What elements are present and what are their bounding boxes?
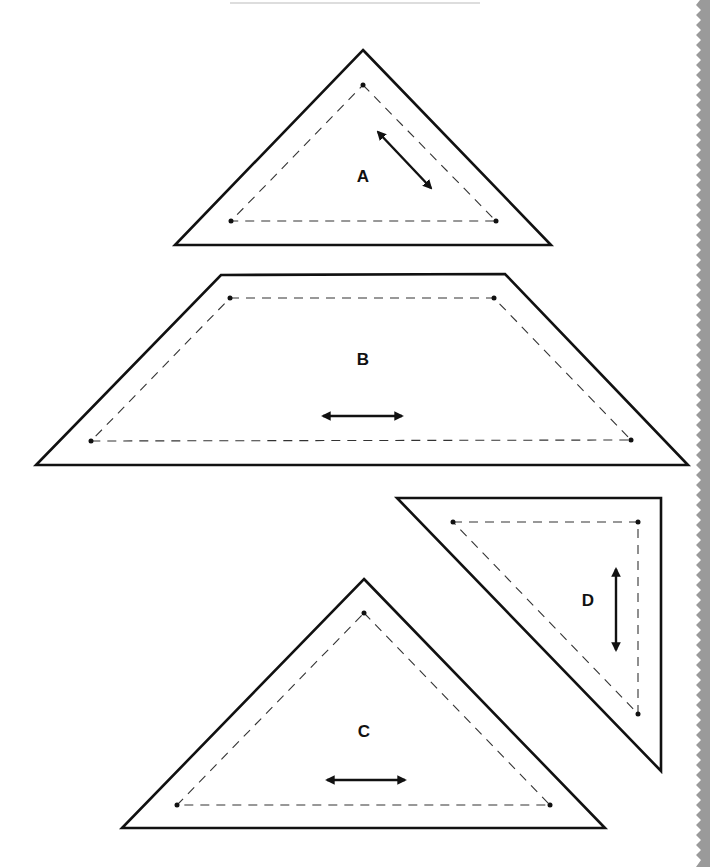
seam-dot [362, 611, 367, 616]
piece-b-cut-line [36, 274, 688, 465]
piece-a: A [175, 50, 551, 245]
pattern-sheet: A B D C [0, 0, 710, 867]
seam-dot [629, 438, 634, 443]
piece-b: B [36, 274, 688, 465]
seam-dot [175, 803, 180, 808]
seam-dot [228, 296, 233, 301]
piece-label: B [357, 350, 369, 369]
seam-dot [451, 520, 456, 525]
seam-dot [636, 520, 641, 525]
seam-dot [89, 439, 94, 444]
seam-dot [636, 712, 641, 717]
seam-dot [229, 219, 234, 224]
seam-dot [494, 219, 499, 224]
piece-label: D [582, 591, 594, 610]
seam-dot [361, 83, 366, 88]
seam-dot [492, 296, 497, 301]
piece-a-cut-line [175, 50, 551, 245]
piece-label: C [358, 722, 370, 741]
piece-label: A [357, 167, 369, 186]
zigzag-page-edge [696, 0, 710, 867]
seam-dot [548, 803, 553, 808]
